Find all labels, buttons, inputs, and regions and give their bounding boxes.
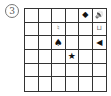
star-icon: ★ bbox=[66, 50, 80, 64]
grid-cell bbox=[66, 36, 80, 50]
grid-cell bbox=[39, 64, 53, 78]
grid-cell bbox=[52, 50, 66, 64]
grid-cell bbox=[79, 50, 93, 64]
grid-cell bbox=[25, 77, 39, 91]
grid-cell bbox=[79, 77, 93, 91]
grid-cell bbox=[39, 9, 53, 23]
grid-cell bbox=[66, 77, 80, 91]
grid-cell bbox=[39, 23, 53, 37]
grid-cell bbox=[39, 77, 53, 91]
grid-cell bbox=[25, 36, 39, 50]
bracket-icon: ⊔ bbox=[93, 23, 107, 37]
grid-cell bbox=[39, 50, 53, 64]
grid-cell bbox=[66, 64, 80, 78]
grid-cell bbox=[79, 23, 93, 37]
problem-number-label: 3 bbox=[5, 4, 19, 18]
puzzle-grid: ◆ 🔊 ♮ ⊔ ♠ ◀ ★ bbox=[24, 8, 107, 92]
grid-cell bbox=[66, 23, 80, 37]
small-figure-icon: ♮ bbox=[52, 23, 66, 37]
grid-cell bbox=[52, 9, 66, 23]
grid-cell bbox=[25, 9, 39, 23]
grid-cell bbox=[93, 64, 107, 78]
spade-icon: ♠ bbox=[52, 36, 66, 50]
grid-cell bbox=[52, 64, 66, 78]
grid-cell bbox=[25, 23, 39, 37]
speaker-icon: 🔊 bbox=[93, 9, 107, 23]
grid-cell bbox=[93, 77, 107, 91]
left-triangle-icon: ◀ bbox=[93, 36, 107, 50]
diamond-icon: ◆ bbox=[79, 9, 93, 23]
grid-cell bbox=[93, 50, 107, 64]
grid-cell bbox=[39, 36, 53, 50]
grid-cell bbox=[79, 64, 93, 78]
grid-cell bbox=[66, 9, 80, 23]
grid-cell bbox=[79, 36, 93, 50]
grid-cell bbox=[25, 50, 39, 64]
grid-cell bbox=[25, 64, 39, 78]
grid-cell bbox=[52, 77, 66, 91]
